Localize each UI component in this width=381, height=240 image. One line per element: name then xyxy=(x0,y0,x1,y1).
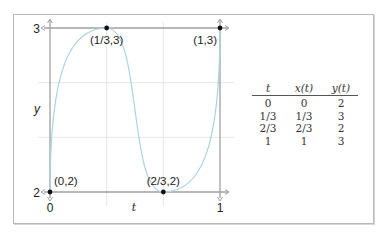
cell-y: 2 xyxy=(324,97,358,110)
table-row: 2/3 2/3 2 xyxy=(252,122,358,135)
x-axis-label: t xyxy=(132,201,137,214)
cell-x: 2/3 xyxy=(284,122,324,135)
point-annotation: (1,3) xyxy=(193,34,217,46)
labels: t y (0,2)(1/3,3)(2/3,2)(1,3) xyxy=(33,34,217,214)
table-row: 1/3 1/3 3 xyxy=(252,110,358,123)
table-row: 0 0 2 xyxy=(252,97,358,110)
x-tick-label: 0 xyxy=(47,201,54,215)
data-point xyxy=(218,26,223,31)
point-annotation: (2/3,2) xyxy=(147,175,180,187)
y-axis-label: y xyxy=(33,102,41,116)
cell-x: 1/3 xyxy=(284,110,324,123)
x-tick-label: 1 xyxy=(217,201,224,215)
table-row: 1 1 3 xyxy=(252,135,358,148)
cell-t: 2/3 xyxy=(252,122,284,135)
header-x: x(t) xyxy=(284,82,324,95)
values-table: t x(t) y(t) 0 0 2 1/3 1/3 3 2/3 2/3 2 1 … xyxy=(252,82,358,147)
cell-t: 1/3 xyxy=(252,110,284,123)
point-annotation: (1/3,3) xyxy=(90,34,123,46)
table-header: t x(t) y(t) xyxy=(252,82,358,96)
data-point xyxy=(48,190,53,195)
cell-y: 2 xyxy=(324,122,358,135)
header-t: t xyxy=(252,82,284,95)
data-point xyxy=(161,190,166,195)
cell-x: 0 xyxy=(284,97,324,110)
cell-t: 1 xyxy=(252,135,284,148)
point-annotation: (0,2) xyxy=(54,175,78,187)
cell-t: 0 xyxy=(252,97,284,110)
curve-y-of-t xyxy=(50,28,220,192)
cell-y: 3 xyxy=(324,135,358,148)
y-tick-label: 3 xyxy=(33,22,40,36)
data-point xyxy=(104,26,109,31)
header-y: y(t) xyxy=(324,82,358,95)
y-tick-label: 2 xyxy=(33,186,40,200)
cell-y: 3 xyxy=(324,110,358,123)
cell-x: 1 xyxy=(284,135,324,148)
